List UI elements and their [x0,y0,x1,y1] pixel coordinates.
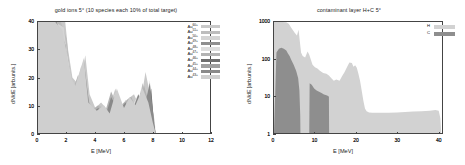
plot-area-contaminant-layer [273,21,443,134]
series-Au43+ [38,22,156,133]
legend-gold-ions: Au60+Au51+Au50+Au49+Au48+Au47+Au46+Au45+… [184,24,220,80]
x-axis-label-gold-ions: E [MeV] [91,148,111,154]
y-tick-mark [273,96,276,97]
x-tick-label: 0 [272,137,275,143]
y-tick-mark [37,78,40,79]
y-tick-mark [37,21,40,22]
legend-swatch [434,32,455,36]
x-tick-label: 6 [123,137,126,143]
legend-label: H [416,24,430,28]
legend-swatch [201,70,220,73]
y-tick-label: 40 [15,18,34,24]
legend-swatch [201,47,220,50]
panel-contaminant-layer: contaminant layer H+C 5° dN/dE [arb.unit… [233,0,465,165]
x-tick-label: 40 [436,137,442,143]
x-tick-label: 10 [312,137,318,143]
x-tick-mark [397,132,398,135]
x-tick-label: 10 [179,137,185,143]
chart-title-gold-ions: gold ions 5° (10 species each 10% of tot… [0,7,232,13]
legend-label: C [416,31,430,35]
x-tick-label: 2 [65,137,68,143]
x-tick-mark [182,132,183,135]
legend-contaminant-layer: HC [416,23,455,37]
legend-swatch [434,25,455,29]
contaminant-layer-series-svg [274,22,442,133]
x-tick-mark [66,132,67,135]
x-tick-mark [211,132,212,135]
y-tick-label: 10 [15,103,34,109]
y-tick-label: 30 [15,46,34,52]
y-tick-label: 10 [251,93,270,99]
y-tick-mark [273,134,276,135]
legend-item[interactable]: C [416,30,455,37]
x-tick-mark [95,132,96,135]
y-tick-label: 0 [15,131,34,137]
x-tick-mark [314,132,315,135]
y-tick-label: 1 [251,131,270,137]
y-tick-label: 1000 [251,18,270,24]
legend-swatch [201,75,220,78]
y-tick-mark [273,59,276,60]
x-tick-label: 30 [395,137,401,143]
legend-item[interactable]: H [416,23,455,30]
x-tick-mark [356,132,357,135]
legend-swatch [201,36,220,39]
x-tick-mark [439,132,440,135]
x-axis-label-contaminant-layer: E [MeV] [333,148,353,154]
legend-label: Au43+ [184,75,198,80]
legend-swatch [201,59,220,62]
x-tick-label: 8 [152,137,155,143]
y-tick-label: 100 [251,56,270,62]
chart-title-contaminant-layer: contaminant layer H+C 5° [233,7,465,13]
y-tick-mark [37,106,40,107]
x-tick-label: 0 [36,137,39,143]
y-tick-mark [37,134,40,135]
x-tick-label: 4 [94,137,97,143]
y-axis-label-gold-ions: dN/dE [arb.units.] [10,64,16,104]
legend-item[interactable]: Au43+ [184,74,220,80]
x-tick-label: 20 [353,137,359,143]
y-tick-mark [37,49,40,50]
y-tick-label: 20 [15,75,34,81]
legend-swatch [201,53,220,56]
panel-gold-ions: gold ions 5° (10 species each 10% of tot… [0,0,232,165]
x-tick-mark [153,132,154,135]
legend-swatch [201,25,220,28]
legend-swatch [201,31,220,34]
figure-container: gold ions 5° (10 species each 10% of tot… [0,0,465,165]
legend-swatch [201,42,220,45]
legend-swatch [201,64,220,67]
x-tick-label: 12 [208,137,214,143]
y-tick-mark [273,21,276,22]
x-tick-mark [124,132,125,135]
